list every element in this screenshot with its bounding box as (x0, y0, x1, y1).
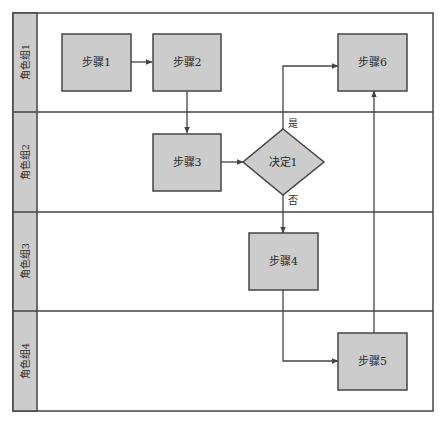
swimlane-diagram: 角色组1 角色组2 角色组3 角色组4 步骤1 步骤2 步骤6 步骤3 决定 (0, 0, 444, 423)
node-label: 步骤1 (82, 56, 111, 69)
node-label: 步骤2 (173, 56, 202, 69)
lane-label-2: 角色组2 (19, 144, 31, 180)
node-step3[interactable]: 步骤3 (153, 134, 221, 191)
node-label: 决定1 (269, 155, 298, 169)
node-step6[interactable]: 步骤6 (338, 34, 407, 91)
node-step5[interactable]: 步骤5 (338, 333, 407, 390)
node-step4[interactable]: 步骤4 (249, 233, 318, 290)
edge-label-yes: 是 (288, 118, 298, 129)
node-step2[interactable]: 步骤2 (153, 34, 221, 91)
node-label: 步骤6 (358, 56, 387, 69)
node-label: 步骤4 (269, 255, 298, 268)
edge-label-no: 否 (288, 195, 298, 206)
node-label: 步骤3 (173, 156, 202, 169)
lane-label-4: 角色组4 (19, 343, 31, 379)
node-label: 步骤5 (358, 355, 387, 368)
node-step1[interactable]: 步骤1 (62, 34, 131, 91)
lane-label-3: 角色组3 (19, 243, 31, 279)
lane-label-1: 角色组1 (19, 44, 31, 80)
